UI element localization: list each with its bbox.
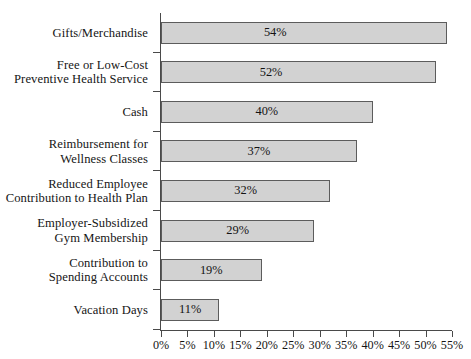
bar — [161, 220, 314, 242]
bar — [161, 22, 447, 44]
x-axis-tick-label: 15% — [229, 338, 251, 353]
bar-chart: Gifts/Merchandise54%Free or Low-CostPrev… — [0, 0, 471, 359]
bar-row: Contribution toSpending Accounts19% — [0, 251, 471, 291]
x-axis-tick — [293, 331, 294, 337]
category-label-line: Spending Accounts — [49, 270, 148, 285]
category-label: Employer-SubsidizedGym Membership — [0, 211, 148, 251]
category-label: Gifts/Merchandise — [0, 13, 148, 53]
category-label: Reimbursement forWellness Classes — [0, 132, 148, 172]
category-label-line: Employer-Subsidized — [37, 216, 148, 231]
category-label-line: Contribution to Health Plan — [6, 191, 148, 206]
x-axis-tick — [452, 331, 453, 337]
bar — [161, 140, 357, 162]
bar-row: Cash40% — [0, 92, 471, 132]
bar-row: Gifts/Merchandise54% — [0, 13, 471, 53]
bar-row: Employer-SubsidizedGym Membership29% — [0, 211, 471, 251]
x-axis-tick-label: 10% — [203, 338, 225, 353]
bar-row: Reimbursement forWellness Classes37% — [0, 132, 471, 172]
x-axis-tick-label: 55% — [441, 338, 463, 353]
bar — [161, 101, 373, 123]
x-axis-tick-label: 30% — [309, 338, 331, 353]
category-label-line: Reimbursement for — [49, 137, 148, 152]
x-axis-tick — [240, 331, 241, 337]
x-axis-tick — [187, 331, 188, 337]
category-label-line: Reduced Employee — [48, 177, 148, 192]
bar-row: Vacation Days11% — [0, 290, 471, 330]
x-axis-tick — [320, 331, 321, 337]
category-label-line: Preventive Health Service — [14, 72, 148, 87]
bar — [161, 259, 262, 281]
category-label-line: Gym Membership — [55, 231, 148, 246]
x-axis-tick — [426, 331, 427, 337]
x-axis-tick-label: 45% — [388, 338, 410, 353]
x-axis-tick-label: 50% — [414, 338, 436, 353]
bar-row: Reduced EmployeeContribution to Health P… — [0, 171, 471, 211]
category-label-line: Vacation Days — [74, 303, 148, 318]
x-axis-tick-label: 0% — [153, 338, 169, 353]
bar-rows-container: Gifts/Merchandise54%Free or Low-CostPrev… — [0, 13, 471, 330]
category-label-line: Wellness Classes — [60, 152, 148, 167]
y-axis-tick — [153, 329, 161, 330]
category-label-line: Cash — [122, 105, 148, 120]
x-axis-tick — [161, 331, 162, 337]
x-axis-tick — [373, 331, 374, 337]
category-label: Contribution toSpending Accounts — [0, 251, 148, 291]
bar — [161, 299, 219, 321]
x-axis-tick-label: 20% — [256, 338, 278, 353]
category-label: Free or Low-CostPreventive Health Servic… — [0, 53, 148, 93]
bar — [161, 180, 330, 202]
x-axis-line — [160, 330, 452, 331]
x-axis-tick — [346, 331, 347, 337]
bar-row: Free or Low-CostPreventive Health Servic… — [0, 53, 471, 93]
x-axis-tick-label: 35% — [335, 338, 357, 353]
category-label: Vacation Days — [0, 290, 148, 330]
category-label-line: Gifts/Merchandise — [53, 26, 148, 41]
x-axis-tick-label: 40% — [361, 338, 383, 353]
x-axis-tick-label: 25% — [282, 338, 304, 353]
category-label: Reduced EmployeeContribution to Health P… — [0, 171, 148, 211]
x-axis-tick — [399, 331, 400, 337]
x-axis-tick-label: 5% — [179, 338, 195, 353]
category-label-line: Contribution to — [69, 256, 148, 271]
bar — [161, 61, 436, 83]
x-axis-tick — [214, 331, 215, 337]
x-axis-tick — [267, 331, 268, 337]
category-label: Cash — [0, 92, 148, 132]
category-label-line: Free or Low-Cost — [57, 58, 148, 73]
